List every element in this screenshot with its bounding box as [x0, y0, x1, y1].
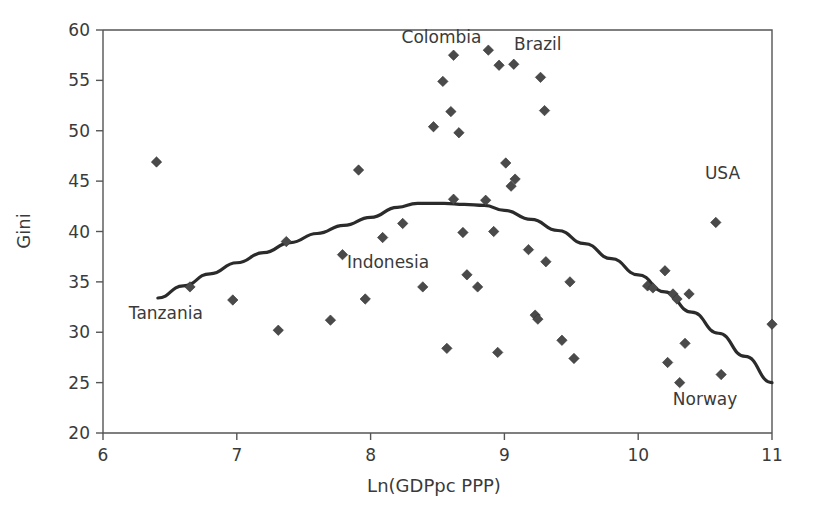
- point-annotation-label: Brazil: [514, 34, 561, 54]
- point-annotation-label: Tanzania: [128, 303, 203, 323]
- x-tick-label: 11: [761, 445, 783, 465]
- data-point-marker: [360, 294, 370, 304]
- point-annotation-label: Colombia: [402, 27, 482, 47]
- y-tick-label: 45: [68, 171, 90, 191]
- data-point-marker: [523, 244, 533, 254]
- y-tick-label: 30: [68, 322, 90, 342]
- data-point-marker: [662, 357, 672, 367]
- y-tick-label: 40: [68, 222, 90, 242]
- data-point-marker: [353, 165, 363, 175]
- data-point-marker: [716, 369, 726, 379]
- data-point-marker: [541, 257, 551, 267]
- data-point-marker: [377, 232, 387, 242]
- data-point-marker: [418, 282, 428, 292]
- chart-figure: 20253035404550556067891011 ColombiaBrazi…: [0, 0, 817, 512]
- data-point-marker: [494, 60, 504, 70]
- y-tick-label: 55: [68, 70, 90, 90]
- data-point-marker: [446, 106, 456, 116]
- axis-lines: [103, 30, 772, 433]
- x-axis-title: Ln(GDPpc PPP): [367, 475, 501, 496]
- data-point-marker: [398, 218, 408, 228]
- data-point-marker: [539, 105, 549, 115]
- y-tick-label: 35: [68, 272, 90, 292]
- data-point-marker: [680, 338, 690, 348]
- data-point-marker: [228, 295, 238, 305]
- data-point-marker: [501, 158, 511, 168]
- point-annotation-label: USA: [705, 163, 741, 183]
- data-point-marker: [565, 277, 575, 287]
- data-point-marker: [462, 270, 472, 280]
- plot-frame: [103, 30, 772, 433]
- data-point-marker: [483, 45, 493, 55]
- axis-ticks: [96, 30, 772, 440]
- data-point-marker: [448, 50, 458, 60]
- data-point-marker: [472, 282, 482, 292]
- data-point-marker: [767, 319, 777, 329]
- x-tick-label: 7: [231, 445, 242, 465]
- y-tick-label: 25: [68, 373, 90, 393]
- data-point-marker: [325, 315, 335, 325]
- scatter-plot: 20253035404550556067891011 ColombiaBrazi…: [0, 0, 817, 512]
- data-point-marker: [273, 325, 283, 335]
- data-point-marker: [454, 128, 464, 138]
- plot-border: [103, 30, 772, 433]
- data-point-marker: [674, 377, 684, 387]
- x-tick-label: 9: [499, 445, 510, 465]
- data-points: [151, 45, 777, 388]
- point-annotation-label: Norway: [673, 389, 738, 409]
- point-annotation-label: Indonesia: [347, 252, 429, 272]
- data-point-marker: [660, 266, 670, 276]
- data-point-marker: [151, 157, 161, 167]
- y-tick-label: 60: [68, 20, 90, 40]
- data-point-marker: [458, 227, 468, 237]
- y-tick-label: 20: [68, 423, 90, 443]
- data-point-marker: [438, 76, 448, 86]
- data-point-marker: [684, 289, 694, 299]
- y-axis-title: Gini: [13, 213, 34, 248]
- data-point-marker: [488, 226, 498, 236]
- data-point-marker: [535, 72, 545, 82]
- data-point-marker: [493, 347, 503, 357]
- x-tick-label: 10: [627, 445, 649, 465]
- x-tick-label: 8: [365, 445, 376, 465]
- y-tick-label: 50: [68, 121, 90, 141]
- point-annotations: ColombiaBrazilUSAIndonesiaTanzaniaNorway: [128, 27, 741, 409]
- data-point-marker: [557, 335, 567, 345]
- data-point-marker: [569, 353, 579, 363]
- data-point-marker: [711, 217, 721, 227]
- x-tick-label: 6: [98, 445, 109, 465]
- data-point-marker: [428, 122, 438, 132]
- data-point-marker: [442, 343, 452, 353]
- data-point-marker: [509, 59, 519, 69]
